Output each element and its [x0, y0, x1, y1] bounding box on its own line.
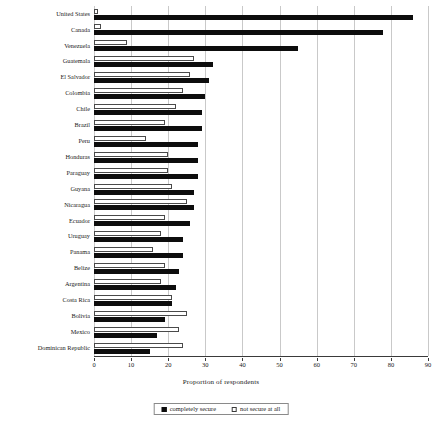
gridline	[428, 6, 429, 356]
bar-not-secure-at-all	[94, 263, 165, 268]
bar-not-secure-at-all	[94, 88, 183, 93]
y-axis-tick-label: Argentina	[2, 281, 90, 287]
x-axis-ticks: 0102030405060708090	[94, 358, 428, 372]
bar-completely-secure	[94, 126, 202, 131]
y-axis-tick-label: Mexico	[2, 329, 90, 335]
bar-group	[94, 276, 428, 292]
bar-not-secure-at-all	[94, 231, 161, 236]
bar-not-secure-at-all	[94, 9, 98, 14]
bar-completely-secure	[94, 349, 150, 354]
y-axis-tick-label: Guatemala	[2, 58, 90, 64]
bar-group	[94, 229, 428, 245]
bar-group	[94, 261, 428, 277]
y-axis-tick-label: Guyana	[2, 186, 90, 192]
y-axis-tick-label: Ecuador	[2, 218, 90, 224]
legend-item-completely-secure: completely secure	[162, 406, 216, 412]
bar-not-secure-at-all	[94, 40, 127, 45]
bar-not-secure-at-all	[94, 24, 101, 29]
bar-completely-secure	[94, 253, 183, 258]
bar-group	[94, 245, 428, 261]
legend-swatch-outlined-icon	[232, 407, 237, 412]
x-axis-tick-label: 0	[92, 362, 95, 369]
bar-not-secure-at-all	[94, 215, 165, 220]
bar-group	[94, 340, 428, 356]
bar-group	[94, 308, 428, 324]
x-axis-tick-label: 20	[165, 362, 172, 369]
y-axis-tick-label: Brazil	[2, 122, 90, 128]
bar-group	[94, 149, 428, 165]
chart-container: United StatesCanadaVenezuelaGuatemalaEl …	[0, 0, 442, 425]
bar-not-secure-at-all	[94, 120, 165, 125]
bar-not-secure-at-all	[94, 136, 146, 141]
bar-completely-secure	[94, 190, 194, 195]
bar-group	[94, 101, 428, 117]
x-axis-tick-label: 90	[425, 362, 432, 369]
y-axis-category-labels: United StatesCanadaVenezuelaGuatemalaEl …	[0, 6, 90, 356]
bar-group	[94, 133, 428, 149]
bar-group	[94, 213, 428, 229]
bar-group	[94, 165, 428, 181]
y-axis-tick-label: Canada	[2, 27, 90, 33]
y-axis-tick-label: Colombia	[2, 90, 90, 96]
plot-area	[94, 6, 428, 356]
bar-not-secure-at-all	[94, 104, 176, 109]
bar-completely-secure	[94, 142, 198, 147]
bar-not-secure-at-all	[94, 247, 153, 252]
bar-group	[94, 181, 428, 197]
bar-completely-secure	[94, 30, 383, 35]
bar-not-secure-at-all	[94, 327, 179, 332]
bar-group	[94, 117, 428, 133]
y-axis-tick-label: Nicaragua	[2, 202, 90, 208]
bar-completely-secure	[94, 237, 183, 242]
y-axis-tick-label: Belize	[2, 265, 90, 271]
y-axis-tick-label: El Salvador	[2, 74, 90, 80]
x-axis-tick-label: 10	[128, 362, 135, 369]
bar-not-secure-at-all	[94, 295, 172, 300]
bar-completely-secure	[94, 269, 179, 274]
legend-item-not-secure-at-all: not secure at all	[232, 406, 280, 412]
x-axis-tick-label: 50	[276, 362, 283, 369]
y-axis-tick-label: Dominican Republic	[2, 345, 90, 351]
bar-group	[94, 6, 428, 22]
bar-completely-secure	[94, 110, 202, 115]
bar-completely-secure	[94, 62, 213, 67]
bar-not-secure-at-all	[94, 56, 194, 61]
y-axis-tick-label: Costa Rica	[2, 297, 90, 303]
y-axis-tick-label: Peru	[2, 138, 90, 144]
bar-completely-secure	[94, 158, 198, 163]
bar-completely-secure	[94, 285, 176, 290]
bar-not-secure-at-all	[94, 311, 187, 316]
bar-not-secure-at-all	[94, 279, 161, 284]
legend-swatch-filled-icon	[162, 407, 167, 412]
bar-group	[94, 22, 428, 38]
bar-completely-secure	[94, 174, 198, 179]
bar-group	[94, 70, 428, 86]
bar-completely-secure	[94, 317, 165, 322]
bar-completely-secure	[94, 46, 298, 51]
bar-group	[94, 197, 428, 213]
y-axis-tick-label: Paraguay	[2, 170, 90, 176]
bar-completely-secure	[94, 221, 190, 226]
bar-group	[94, 38, 428, 54]
y-axis-tick-label: Panama	[2, 249, 90, 255]
x-axis-tick-label: 60	[313, 362, 320, 369]
y-axis-tick-label: United States	[2, 11, 90, 17]
bar-not-secure-at-all	[94, 168, 168, 173]
bar-not-secure-at-all	[94, 199, 187, 204]
bar-completely-secure	[94, 333, 157, 338]
bar-group	[94, 292, 428, 308]
y-axis-tick-label: Bolivia	[2, 313, 90, 319]
y-axis-tick-label: Honduras	[2, 154, 90, 160]
y-axis-tick-label: Venezuela	[2, 43, 90, 49]
bar-group	[94, 54, 428, 70]
x-axis-tick-label: 70	[351, 362, 358, 369]
bar-completely-secure	[94, 78, 209, 83]
bar-not-secure-at-all	[94, 184, 172, 189]
bar-completely-secure	[94, 301, 172, 306]
y-axis-tick-label: Uruguay	[2, 233, 90, 239]
bar-not-secure-at-all	[94, 343, 183, 348]
bar-not-secure-at-all	[94, 152, 168, 157]
bar-not-secure-at-all	[94, 72, 190, 77]
x-axis-tick-label: 80	[388, 362, 395, 369]
bar-group	[94, 86, 428, 102]
